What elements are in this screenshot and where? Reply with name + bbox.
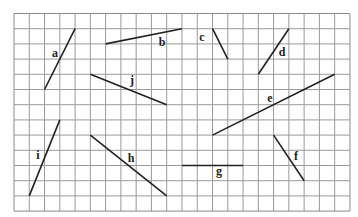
segment-label-c: c	[199, 30, 205, 44]
line-segments-diagram: a b c d e f g h i j	[0, 0, 358, 217]
segment-label-a: a	[52, 46, 58, 60]
segment-label-e: e	[267, 91, 273, 105]
segment-label-h: h	[128, 151, 135, 165]
segment-b	[106, 29, 182, 44]
segment-labels: a b c d e f g h i j	[36, 30, 299, 178]
segment-label-j: j	[129, 73, 134, 87]
grid	[14, 14, 350, 212]
segment-label-g: g	[216, 164, 222, 178]
segment-label-b: b	[159, 35, 166, 49]
segment-label-f: f	[294, 149, 299, 163]
segment-label-d: d	[279, 45, 286, 59]
